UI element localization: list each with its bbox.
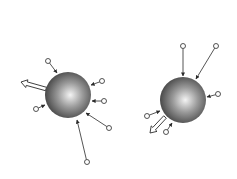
impact-arrow-icon	[38, 105, 45, 108]
particle-circle-icon	[107, 126, 112, 131]
impact-arrow-icon	[149, 111, 160, 115]
brownian-motion-diagram	[0, 0, 237, 179]
net-motion-arrow-icon	[21, 80, 47, 91]
particle-circle-icon	[216, 92, 221, 97]
particle-circle-icon	[102, 99, 107, 104]
impact-arrow-icon	[196, 48, 215, 79]
particle-circle-icon	[46, 59, 51, 64]
diagram-canvas	[0, 0, 237, 179]
particle-circle-icon	[145, 114, 150, 119]
impact-arrow-icon	[207, 95, 216, 97]
particle	[196, 44, 219, 80]
particle	[34, 105, 46, 112]
particle	[91, 79, 105, 86]
impact-arrow-icon	[86, 113, 107, 127]
particle	[145, 111, 161, 119]
particle-circle-icon	[181, 44, 186, 49]
particle	[92, 99, 107, 104]
particle	[164, 123, 173, 135]
impact-arrow-icon	[77, 120, 86, 160]
impact-arrow-icon	[167, 123, 172, 130]
sphere-group-left	[21, 59, 112, 165]
particle	[46, 59, 58, 74]
sphere	[160, 77, 206, 123]
particle-circle-icon	[164, 130, 169, 135]
particle-circle-icon	[34, 107, 39, 112]
sphere-group-right	[145, 44, 221, 135]
particle	[86, 113, 112, 131]
particle-circle-icon	[214, 44, 219, 49]
impact-arrow-icon	[91, 82, 100, 85]
particle	[181, 44, 186, 77]
particle-circle-icon	[100, 79, 105, 84]
particle	[207, 92, 221, 98]
spheres-layer	[21, 44, 221, 165]
particle-circle-icon	[85, 160, 90, 165]
sphere	[45, 72, 91, 118]
impact-arrow-icon	[50, 63, 58, 73]
particle	[77, 120, 90, 165]
